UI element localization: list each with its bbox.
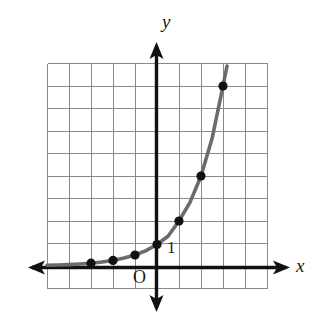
data-point — [86, 259, 95, 268]
data-point — [108, 256, 117, 265]
data-point — [196, 171, 205, 180]
data-point — [218, 81, 227, 90]
exponential-curve — [47, 66, 227, 265]
y-axis — [150, 42, 164, 312]
origin-label: O — [133, 268, 146, 286]
y-axis-label: y — [162, 12, 170, 31]
x-axis — [28, 261, 290, 275]
data-point — [130, 250, 139, 259]
x-axis-label: x — [296, 256, 304, 275]
graph-figure: y x O 1 — [0, 0, 322, 326]
unit-tick-label: 1 — [167, 239, 176, 256]
data-point — [174, 216, 183, 225]
data-point — [152, 240, 161, 249]
coordinate-plane-svg — [0, 0, 322, 326]
